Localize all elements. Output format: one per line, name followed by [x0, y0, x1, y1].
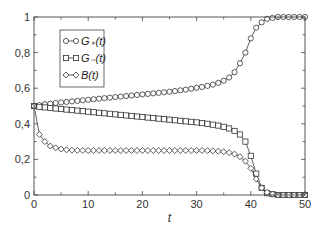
data-point-diamond: [253, 176, 259, 182]
data-point-square: [156, 116, 161, 121]
data-point-diamond: [58, 146, 64, 152]
data-point-circle: [140, 92, 145, 97]
y-tick-label: 1: [24, 11, 30, 23]
data-point-square: [91, 110, 96, 115]
data-point-square: [227, 126, 232, 131]
data-point-circle: [210, 82, 215, 87]
data-point-circle: [183, 87, 188, 92]
data-point-circle: [189, 86, 194, 91]
data-point-circle: [221, 78, 226, 83]
data-point-circle: [237, 61, 242, 66]
legend-label: B(t): [81, 69, 99, 81]
data-point-square: [232, 128, 237, 133]
data-point-circle: [113, 95, 118, 100]
data-point-square: [145, 115, 150, 120]
data-point-circle: [53, 100, 58, 105]
y-tick-label: 0,2: [15, 153, 30, 165]
legend-marker-circle: [73, 38, 78, 43]
data-point-circle: [199, 84, 204, 89]
data-point-circle: [156, 90, 161, 95]
y-tick-label: 0,6: [15, 82, 30, 94]
x-tick-label: 0: [31, 198, 37, 210]
data-point-circle: [243, 50, 248, 55]
data-point-circle: [80, 98, 85, 103]
data-point-circle: [167, 89, 172, 94]
data-point-circle: [86, 97, 91, 102]
data-point-circle: [59, 100, 64, 105]
data-point-circle: [69, 99, 74, 104]
data-point-square: [134, 114, 139, 119]
data-point-circle: [134, 92, 139, 97]
data-point-square: [237, 132, 242, 137]
data-point-square: [210, 122, 215, 127]
data-point-circle: [194, 85, 199, 90]
data-point-square: [194, 120, 199, 125]
data-point-square: [178, 118, 183, 123]
data-point-circle: [151, 91, 156, 96]
data-point-square: [221, 124, 226, 129]
data-point-square: [86, 109, 91, 114]
data-point-square: [69, 107, 74, 112]
legend-marker-square: [63, 55, 68, 60]
data-point-square: [59, 106, 64, 111]
data-point-circle: [129, 93, 134, 98]
data-point-circle: [161, 90, 166, 95]
data-point-circle: [107, 95, 112, 100]
data-point-square: [167, 117, 172, 122]
data-point-square: [124, 113, 129, 118]
legend-label: G₋(t): [81, 52, 106, 64]
data-point-diamond: [232, 151, 238, 157]
y-tick-label: 0,8: [15, 47, 30, 59]
data-point-circle: [178, 88, 183, 93]
data-point-diamond: [53, 145, 59, 151]
data-point-square: [243, 139, 248, 144]
data-point-circle: [259, 20, 264, 25]
data-point-square: [205, 121, 210, 126]
data-point-diamond: [221, 149, 227, 155]
data-point-square: [140, 114, 145, 119]
data-point-square: [107, 111, 112, 116]
x-tick-label: 10: [82, 198, 94, 210]
data-point-square: [216, 123, 221, 128]
data-point-square: [96, 110, 101, 115]
data-point-circle: [254, 25, 259, 30]
data-point-square: [102, 111, 107, 116]
legend-marker-square: [73, 55, 78, 60]
data-point-square: [75, 108, 80, 113]
data-point-diamond: [215, 148, 221, 154]
legend-marker-circle: [63, 38, 68, 43]
data-point-diamond: [64, 147, 70, 153]
data-point-square: [189, 119, 194, 124]
data-point-square: [151, 116, 156, 121]
data-point-square: [248, 153, 253, 158]
y-tick-label: 0: [24, 189, 30, 201]
data-point-circle: [118, 94, 123, 99]
data-point-circle: [270, 15, 275, 20]
data-point-circle: [145, 91, 150, 96]
data-point-circle: [75, 98, 80, 103]
data-point-circle: [232, 70, 237, 75]
data-point-square: [129, 113, 134, 118]
legend-label: G₊(t): [81, 35, 106, 47]
data-point-circle: [248, 36, 253, 41]
data-point-square: [48, 105, 53, 110]
data-point-square: [199, 120, 204, 125]
data-point-square: [161, 117, 166, 122]
data-point-circle: [124, 93, 129, 98]
data-point-diamond: [210, 148, 216, 154]
data-point-circle: [102, 96, 107, 101]
y-tick-label: 0,4: [15, 118, 30, 130]
data-point-square: [80, 109, 85, 114]
data-point-diamond: [226, 150, 232, 156]
x-axis-title: t: [168, 211, 172, 225]
x-tick-label: 30: [190, 198, 202, 210]
data-point-square: [42, 105, 47, 110]
data-point-circle: [64, 99, 69, 104]
x-tick-label: 50: [299, 198, 311, 210]
data-point-circle: [227, 75, 232, 80]
legend: G₊(t)G₋(t)B(t): [60, 30, 106, 87]
data-point-square: [64, 107, 69, 112]
data-point-circle: [91, 97, 96, 102]
x-tick-label: 40: [245, 198, 257, 210]
data-point-circle: [172, 88, 177, 93]
